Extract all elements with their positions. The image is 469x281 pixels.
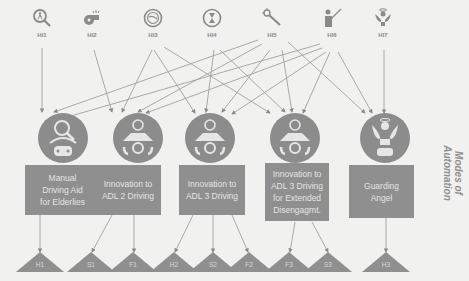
mode-label: Innovation toADL 3 Drivingfor ExtendedDi… [267, 168, 327, 216]
clock-car-hands-icon [270, 113, 320, 163]
clock-car-hands-icon [113, 113, 163, 163]
mode-node-m4 [270, 113, 320, 163]
outcome-h1: H1 [16, 252, 64, 272]
outcome-s3: S3 [304, 252, 352, 272]
mode-node-m2 [113, 113, 163, 163]
human-input-hi2: HI2 [72, 8, 112, 38]
mode-box-m1: ManualDriving Aidfor Elderlies [25, 165, 100, 215]
angel-icon [373, 8, 393, 28]
hi-label: HI4 [192, 32, 232, 38]
human-input-hi3: HI3 [133, 8, 173, 38]
magnifier-car-icon [38, 113, 88, 163]
mode-label: Innovation toADL 2 Driving [98, 178, 158, 202]
mode-label: ManualDriving Aidfor Elderlies [36, 172, 89, 208]
mode-node-m3 [185, 113, 235, 163]
magic-wand-icon [262, 8, 282, 28]
clock-face-icon [143, 8, 163, 28]
magnifier-person-icon [32, 8, 52, 28]
teacher-pointer-icon [322, 8, 342, 28]
hi-label: HI3 [133, 32, 173, 38]
hi-label: HI2 [72, 32, 112, 38]
mode-box-m3: Innovation toADL 3 Driving [179, 165, 245, 215]
human-input-hi4: HI4 [192, 8, 232, 38]
mode-node-m1 [38, 113, 88, 163]
hi-label: HI5 [252, 32, 292, 38]
clock-car-hands-icon [185, 113, 235, 163]
mode-label: GuardingAngel [360, 180, 403, 204]
outcome-s1: S1 [67, 252, 115, 272]
hi-label: HI7 [363, 32, 403, 38]
human-input-hi6: HI6 [312, 8, 352, 38]
side-title-modes-of-automation: Modes of Automation [442, 128, 464, 218]
human-input-hi7: HI7 [363, 8, 403, 38]
mode-box-m4: Innovation toADL 3 Drivingfor ExtendedDi… [265, 163, 329, 221]
hi-label: HI6 [312, 32, 352, 38]
angel-car-icon [360, 113, 410, 163]
outcome-h3: H3 [362, 252, 410, 272]
human-input-hi5: HI5 [252, 8, 292, 38]
mode-label: Innovation toADL 3 Driving [182, 178, 242, 202]
mode-node-m5 [360, 113, 410, 163]
mode-box-m5: GuardingAngel [349, 165, 414, 218]
mode-box-m2: Innovation toADL 2 Driving [95, 165, 161, 215]
human-input-hi1: HI1 [22, 8, 62, 38]
hourglass-icon [202, 8, 222, 28]
whistle-icon [82, 8, 102, 28]
hi-label: HI1 [22, 32, 62, 38]
